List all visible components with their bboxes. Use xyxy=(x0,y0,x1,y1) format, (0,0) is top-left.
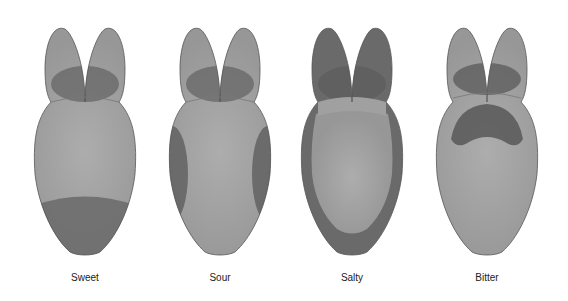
tongue-sour xyxy=(150,24,290,256)
tongue-salty-icon xyxy=(282,24,422,256)
label-salty: Salty xyxy=(282,272,422,283)
label-sour: Sour xyxy=(150,272,290,283)
tongue-bitter-icon xyxy=(417,24,557,256)
tongue-salty xyxy=(282,24,422,256)
tongue-sour-icon xyxy=(150,24,290,256)
label-sweet: Sweet xyxy=(15,272,155,283)
tongue-bitter xyxy=(417,24,557,256)
tongue-sweet-icon xyxy=(15,24,155,256)
label-bitter: Bitter xyxy=(417,272,557,283)
tongue-sweet xyxy=(15,24,155,256)
